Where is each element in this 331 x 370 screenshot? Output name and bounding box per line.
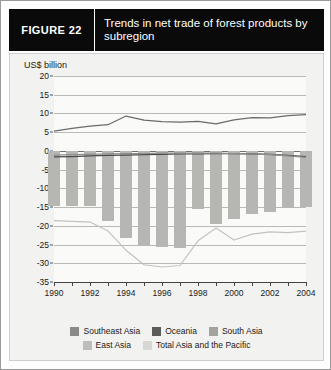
x-axis-tick — [270, 282, 271, 286]
legend-item[interactable]: East Asia — [83, 340, 131, 350]
plot-area: 20151050-5-10-15-20-25-30-35 19901992199… — [54, 76, 306, 282]
y-axis-tick — [50, 225, 53, 226]
y-axis-tick-label: -25 — [37, 240, 49, 250]
figure-card: FIGURE 22 Trends in net trade of forest … — [0, 0, 331, 370]
y-axis-tick-label: -20 — [37, 221, 49, 231]
line-series — [54, 221, 306, 267]
legend-label: South Asia — [222, 326, 263, 336]
legend-label: East Asia — [96, 340, 131, 350]
y-axis-tick — [50, 132, 53, 133]
legend-swatch — [70, 327, 79, 336]
figure-number-label: FIGURE 22 — [9, 9, 95, 51]
chart-legend: Southeast AsiaOceaniaSouth AsiaEast Asia… — [10, 326, 323, 350]
x-axis-tick-label: 2000 — [225, 288, 244, 298]
chart-panel: US$ billion 20151050-5-10-15-20-25-30-35… — [9, 53, 324, 361]
x-axis-tick — [54, 282, 55, 286]
y-axis-tick — [50, 76, 53, 77]
x-axis-tick — [216, 282, 217, 286]
x-axis-tick — [162, 282, 163, 286]
x-axis-tick-label: 1998 — [189, 288, 208, 298]
x-axis-tick-label: 2002 — [261, 288, 280, 298]
y-axis-tick — [50, 207, 53, 208]
legend-row: East AsiaTotal Asia and the Pacific — [83, 340, 251, 350]
line-series-layer — [54, 76, 306, 282]
x-axis-tick — [108, 282, 109, 286]
y-axis-tick — [50, 263, 53, 264]
legend-swatch — [152, 327, 161, 336]
legend-label: Southeast Asia — [83, 326, 140, 336]
x-axis-tick-label: 2004 — [297, 288, 316, 298]
legend-swatch — [209, 327, 218, 336]
y-axis-tick-label: -35 — [37, 277, 49, 287]
legend-swatch — [143, 341, 152, 350]
y-axis-tick-label: -10 — [37, 183, 49, 193]
figure-header: FIGURE 22 Trends in net trade of forest … — [9, 9, 324, 51]
y-axis-unit-label: US$ billion — [24, 60, 67, 70]
x-axis-tick-label: 1992 — [81, 288, 100, 298]
y-axis-tick-label: 15 — [40, 90, 49, 100]
y-axis-tick-label: 10 — [40, 108, 49, 118]
x-axis-tick-label: 1994 — [117, 288, 136, 298]
x-axis-tick — [72, 282, 73, 286]
x-axis-tick-label: 1990 — [45, 288, 64, 298]
legend-item[interactable]: South Asia — [209, 326, 263, 336]
legend-row: Southeast AsiaOceaniaSouth Asia — [70, 326, 262, 336]
line-series — [54, 115, 306, 131]
legend-item[interactable]: Southeast Asia — [70, 326, 140, 336]
x-axis-tick — [126, 282, 127, 286]
x-axis-tick — [252, 282, 253, 286]
y-axis-tick-label: 20 — [40, 71, 49, 81]
y-axis-tick — [50, 244, 53, 245]
legend-label: Oceania — [165, 326, 197, 336]
y-axis-tick-label: -30 — [37, 258, 49, 268]
x-axis-tick — [180, 282, 181, 286]
y-axis-tick-label: -15 — [37, 202, 49, 212]
y-axis-tick — [50, 113, 53, 114]
legend-swatch — [83, 341, 92, 350]
figure-title: Trends in net trade of forest products b… — [95, 9, 324, 51]
legend-item[interactable]: Total Asia and the Pacific — [143, 340, 251, 350]
x-axis-tick — [198, 282, 199, 286]
legend-item[interactable]: Oceania — [152, 326, 197, 336]
x-axis-tick — [306, 282, 307, 286]
x-axis-tick — [144, 282, 145, 286]
legend-label: Total Asia and the Pacific — [156, 340, 251, 350]
x-axis-tick-label: 1996 — [153, 288, 172, 298]
y-axis-tick-label: 5 — [44, 127, 49, 137]
y-axis-tick — [50, 94, 53, 95]
x-axis-tick — [288, 282, 289, 286]
x-axis-tick — [90, 282, 91, 286]
x-axis-tick — [234, 282, 235, 286]
y-axis-tick — [50, 282, 53, 283]
